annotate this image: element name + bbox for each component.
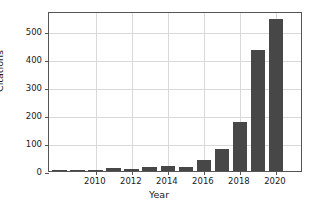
bar [179, 167, 194, 171]
bar [88, 170, 103, 171]
y-tick-label: 400 [16, 55, 42, 65]
x-tick-mark [168, 171, 169, 175]
x-axis-title: Year [0, 189, 318, 200]
x-tick-label: 2020 [258, 176, 292, 186]
bar [215, 149, 230, 171]
x-tick-label: 2012 [114, 176, 148, 186]
x-tick-mark [132, 171, 133, 175]
bar [197, 160, 212, 171]
bar [233, 122, 248, 171]
citations-bar-chart-figure: Citations Year 0100200300400500 20102012… [0, 0, 318, 209]
bar [106, 168, 121, 171]
x-tick-mark [204, 171, 205, 175]
x-tick-mark [96, 171, 97, 175]
bar [52, 170, 67, 171]
bar [161, 166, 176, 171]
bar [124, 169, 139, 171]
x-tick-mark [276, 171, 277, 175]
bar-series [49, 13, 301, 171]
x-tick-label: 2018 [222, 176, 256, 186]
plot-area [48, 12, 302, 172]
bar [269, 19, 284, 171]
y-tick-label: 500 [16, 27, 42, 37]
x-tick-mark [240, 171, 241, 175]
y-tick-label: 200 [16, 111, 42, 121]
y-tick-label: 100 [16, 139, 42, 149]
y-tick-mark [45, 173, 49, 174]
x-tick-label: 2014 [150, 176, 184, 186]
x-tick-label: 2010 [78, 176, 112, 186]
y-axis-title: Citations [0, 50, 5, 92]
bar [251, 50, 266, 171]
y-tick-label: 300 [16, 83, 42, 93]
x-tick-label: 2016 [186, 176, 220, 186]
bar [70, 170, 85, 171]
y-tick-label: 0 [16, 167, 42, 177]
bar [142, 167, 157, 171]
